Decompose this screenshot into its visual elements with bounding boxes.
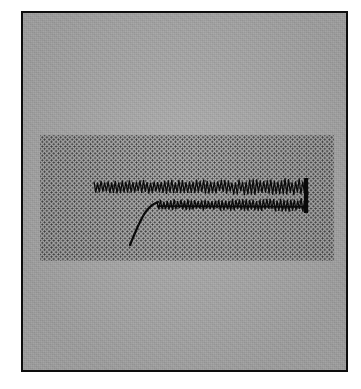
upper-oscillation-trace: [94, 178, 308, 195]
trace-layer: [23, 13, 346, 370]
onset-curve: [130, 202, 158, 245]
plot-frame: [21, 11, 348, 372]
lower-oscillation-trace: [157, 198, 308, 212]
oscillogram-svg: [23, 13, 346, 370]
lower-trace-baseline: [157, 206, 308, 207]
figure-root: [0, 0, 361, 389]
